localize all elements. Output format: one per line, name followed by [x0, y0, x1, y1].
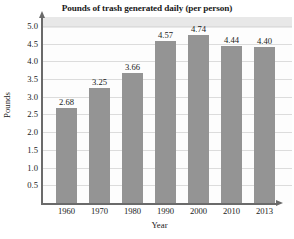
x-axis-line [42, 203, 277, 205]
bar-value-label: 3.66 [116, 62, 150, 72]
bar [221, 46, 242, 203]
x-axis-tick-label: 2010 [215, 206, 249, 216]
y-axis-tick-label: 4.5 [16, 39, 38, 49]
bar-value-label: 2.68 [50, 97, 84, 107]
bar-value-label: 4.40 [248, 36, 282, 46]
bar-value-label: 4.57 [149, 30, 183, 40]
x-axis-tick-label: 1980 [116, 206, 150, 216]
y-axis-tick-label: 3.0 [16, 92, 38, 102]
bar [122, 73, 143, 203]
x-axis-tick-label: 1960 [50, 206, 84, 216]
x-axis-tick-label: 2013 [248, 206, 282, 216]
bar-chart-figure: Pounds of trash generated daily (per per… [0, 0, 294, 239]
bar-value-label: 4.44 [215, 35, 249, 45]
y-axis-tick-label: 1.0 [16, 163, 38, 173]
gridline [42, 26, 292, 27]
x-axis-tick-label: 1990 [149, 206, 183, 216]
x-axis-tick-label: 2000 [182, 206, 216, 216]
x-axis-title: Year [42, 220, 277, 230]
y-axis-tick-label: 3.5 [16, 74, 38, 84]
bar [254, 47, 275, 203]
y-axis-tick-label: 2.5 [16, 109, 38, 119]
bar [155, 41, 176, 203]
bar-value-label: 3.25 [83, 77, 117, 87]
y-axis-arrow-icon [39, 11, 45, 18]
x-axis-tick-label: 1970 [83, 206, 117, 216]
bar [89, 88, 110, 203]
y-axis-tick-label: 4.0 [16, 56, 38, 66]
y-axis-tick-label: 2.0 [16, 127, 38, 137]
bar [56, 108, 77, 203]
y-axis-tick-label: 5.0 [16, 21, 38, 31]
y-axis-tick-label: 1.5 [16, 145, 38, 155]
bar-value-label: 4.74 [182, 24, 216, 34]
y-axis-tick-label: 0.5 [16, 180, 38, 190]
y-axis-title: Pounds [2, 85, 12, 125]
y-axis-line [41, 17, 43, 205]
bar [188, 35, 209, 203]
